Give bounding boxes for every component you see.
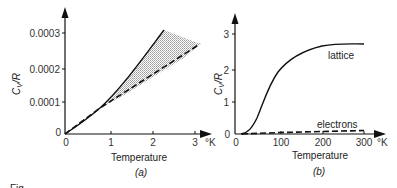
panel-label-b: (b) bbox=[313, 166, 325, 177]
xtick-a-0: 0 bbox=[63, 137, 69, 148]
y-axis-arrow-icon bbox=[62, 7, 69, 18]
ytick-b-1: 1 bbox=[223, 97, 229, 108]
xtick-a-1: 1 bbox=[108, 137, 114, 148]
xlabel-a: Temperature bbox=[111, 152, 168, 163]
ylabel-b: CV/R bbox=[213, 73, 225, 95]
ytick-a-0002: 0.0002 bbox=[29, 64, 60, 75]
ytick-a-0: 0 bbox=[55, 127, 61, 138]
svg-text:CV/R: CV/R bbox=[11, 73, 23, 95]
panel-a: 0.0003 0.0002 0.0001 0 0 1 2 3 °K Temper… bbox=[11, 7, 216, 178]
solid-curve-a bbox=[65, 30, 164, 134]
ytick-a-0001: 0.0001 bbox=[29, 97, 60, 108]
ytick-b-3: 3 bbox=[223, 29, 229, 40]
xtick-b-100: 100 bbox=[273, 137, 290, 148]
xtick-b-0: 0 bbox=[233, 137, 239, 148]
unit-b: °K bbox=[377, 137, 388, 148]
figure-caption: Fig. bbox=[10, 183, 27, 188]
svg-text:CV/R: CV/R bbox=[213, 73, 225, 95]
unit-a: °K bbox=[205, 137, 216, 148]
panel-label-a: (a) bbox=[135, 167, 147, 178]
xtick-b-200: 200 bbox=[315, 137, 332, 148]
y-axis-arrow-icon bbox=[232, 13, 239, 24]
shaded-region bbox=[100, 30, 200, 108]
ytick-b-0: 0 bbox=[224, 129, 230, 140]
ytick-b-2: 2 bbox=[223, 65, 229, 76]
xtick-b-300: 300 bbox=[356, 137, 373, 148]
ylabel-a: CV/R bbox=[11, 73, 23, 95]
lattice-label: lattice bbox=[328, 50, 355, 61]
electrons-label: electrons bbox=[317, 119, 358, 130]
ytick-a-0003: 0.0003 bbox=[29, 28, 60, 39]
xtick-a-3: 3 bbox=[192, 137, 198, 148]
xlabel-b: Temperature bbox=[292, 150, 349, 161]
panel-b: 3 2 1 0 0 100 200 300 °K Temperature (b)… bbox=[213, 13, 388, 177]
figure: 0.0003 0.0002 0.0001 0 0 1 2 3 °K Temper… bbox=[0, 0, 397, 188]
xtick-a-2: 2 bbox=[150, 137, 156, 148]
